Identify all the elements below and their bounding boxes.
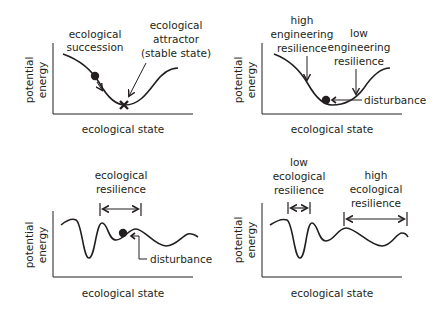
y-axis-label-line2: energy: [245, 62, 257, 99]
attractor-label-line2: attractor: [153, 33, 200, 45]
y-axis-label-line1: potential: [23, 222, 35, 269]
attractor-label-line1: ecological: [150, 19, 203, 31]
disturbance-label: disturbance: [150, 253, 212, 265]
resilience-label-line1: ecological: [95, 169, 148, 181]
x-axis-label: ecological state: [82, 123, 165, 135]
low-resilience-label-line3: resilience: [334, 55, 384, 67]
x-axis-label: ecological state: [291, 123, 374, 135]
y-axis-label-line1: potential: [232, 217, 244, 264]
succession-label-line1: ecological: [69, 28, 122, 40]
disturbance-line: [132, 236, 147, 259]
low-resilience-label-line3: resilience: [274, 184, 324, 196]
attractor-pointer-arrow: [129, 63, 146, 96]
resilience-diagram: potential energy ecological state ecolog…: [0, 0, 441, 316]
y-axis-label-line2: energy: [36, 227, 48, 264]
panel-1: potential energy ecological state ecolog…: [23, 19, 211, 135]
y-axis-label-line1: potential: [232, 57, 244, 104]
disturbance-label: disturbance: [364, 94, 426, 106]
potential-curve: [270, 219, 408, 258]
ball-icon: [322, 96, 330, 104]
y-axis-label-line1: potential: [23, 57, 35, 104]
x-axis-label: ecological state: [291, 287, 374, 299]
high-resilience-label-line1: high: [365, 169, 388, 181]
ball-icon: [119, 229, 127, 237]
ball-icon: [91, 72, 99, 80]
panel-2: potential energy ecological state distur…: [232, 14, 426, 135]
low-resilience-label-line1: low: [350, 27, 368, 39]
x-axis-label: ecological state: [82, 287, 165, 299]
high-resilience-label-line2: engineering: [271, 28, 334, 40]
high-resilience-label-line2: ecological: [350, 183, 403, 195]
succession-label-line2: succession: [66, 41, 123, 53]
panel-3: potential energy ecological state distur…: [23, 169, 212, 299]
high-resilience-label-line3: resilience: [277, 42, 327, 54]
high-resilience-label-line3: resilience: [351, 197, 401, 209]
y-axis-label-line2: energy: [245, 222, 257, 259]
resilience-label-line2: resilience: [96, 183, 146, 195]
y-axis-label-line2: energy: [36, 62, 48, 99]
low-resilience-label-line2: engineering: [328, 41, 391, 53]
low-resilience-label-line1: low: [290, 156, 308, 168]
attractor-label-line3: (stable state): [141, 47, 211, 59]
low-resilience-label-line2: ecological: [273, 170, 326, 182]
high-resilience-label-line1: high: [291, 14, 314, 26]
potential-curve: [63, 54, 178, 105]
panel-4: potential energy ecological state low ec…: [232, 156, 408, 299]
